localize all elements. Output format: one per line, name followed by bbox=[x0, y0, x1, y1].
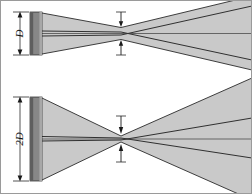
aperture-shadow-small bbox=[30, 12, 33, 55]
waist-arrow-bottom-small bbox=[119, 40, 123, 46]
aperture-shadow-large bbox=[30, 97, 33, 181]
waist-arrow-top-small bbox=[119, 21, 123, 27]
aperture-label-small: D bbox=[13, 29, 25, 38]
beam-diverging-region-large bbox=[121, 78, 252, 194]
panel-large-aperture: 2D bbox=[13, 78, 252, 194]
waist-arrow-bottom-large bbox=[119, 144, 123, 151]
panel-small-aperture: D bbox=[13, 0, 252, 70]
aperture-label-large: 2D bbox=[13, 132, 25, 146]
aperture-highlight-small bbox=[39, 12, 42, 55]
figure-canvas: D bbox=[0, 0, 252, 194]
optics-figure: D bbox=[0, 0, 252, 194]
waist-arrow-top-large bbox=[119, 127, 123, 134]
aperture-highlight-large bbox=[39, 97, 42, 181]
